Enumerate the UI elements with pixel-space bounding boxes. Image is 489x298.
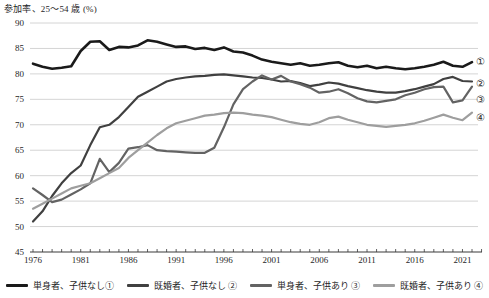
legend-label-4: 既婚者、子供あり ④ (400, 279, 483, 292)
y-tick-label: 75 (15, 94, 25, 104)
legend-swatch-1 (6, 284, 28, 287)
series-line-3 (33, 75, 472, 202)
x-tick-label: 2011 (358, 255, 376, 265)
legend-label-2: 既婚者、子供なし ② (154, 279, 237, 292)
series-line-1 (33, 40, 472, 69)
x-tick-label: 1991 (167, 255, 185, 265)
participation-rate-chart: 参加率、25～54 歳 (%) 455055606570758085901976… (0, 0, 489, 298)
x-tick-label: 2001 (263, 255, 281, 265)
series-end-label-3: ③ (476, 94, 485, 105)
x-tick-label: 1986 (119, 255, 138, 265)
chart-canvas: 4550556065707580859019761981198619911996… (0, 0, 489, 272)
y-tick-label: 85 (15, 43, 25, 53)
series-end-label-4: ④ (476, 112, 485, 123)
legend-swatch-3 (250, 284, 272, 287)
x-tick-label: 1976 (24, 255, 43, 265)
legend-label-1: 単身者、子供なし① (33, 279, 114, 292)
legend-swatch-2 (127, 284, 149, 287)
series-end-label-1: ① (476, 56, 485, 67)
legend-item-3: 単身者、子供あり ③ (250, 279, 360, 292)
legend-item-4: 既婚者、子供あり ④ (373, 279, 483, 292)
x-tick-label: 1981 (72, 255, 90, 265)
series-end-label-2: ② (476, 78, 485, 89)
x-tick-label: 2016 (406, 255, 425, 265)
y-tick-label: 70 (15, 120, 25, 130)
legend-item-2: 既婚者、子供なし ② (127, 279, 237, 292)
y-tick-label: 60 (15, 171, 25, 181)
series-line-2 (33, 74, 472, 221)
y-tick-label: 50 (15, 222, 25, 232)
chart-legend: 単身者、子供なし①既婚者、子供なし ②単身者、子供あり ③既婚者、子供あり ④ (0, 275, 489, 295)
y-tick-label: 80 (15, 69, 25, 79)
y-tick-label: 90 (15, 18, 25, 28)
x-tick-label: 2006 (310, 255, 329, 265)
legend-label-3: 単身者、子供あり ③ (277, 279, 360, 292)
x-tick-label: 2021 (453, 255, 471, 265)
y-tick-label: 65 (15, 145, 25, 155)
legend-item-1: 単身者、子供なし① (6, 279, 114, 292)
legend-swatch-4 (373, 284, 395, 287)
y-tick-label: 55 (15, 196, 25, 206)
x-tick-label: 1996 (215, 255, 234, 265)
